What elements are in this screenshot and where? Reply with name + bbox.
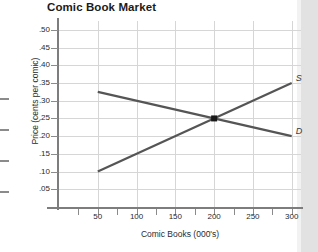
series-line-s bbox=[98, 83, 292, 172]
equilibrium-point bbox=[211, 115, 217, 121]
curve-label-s: S bbox=[296, 73, 302, 83]
chart-page: Comic Book Market .05.10.15.20.25.30.35.… bbox=[0, 0, 318, 252]
curve-label-d: D bbox=[296, 126, 303, 136]
series-lines bbox=[0, 0, 318, 252]
series-line-d bbox=[98, 92, 292, 136]
